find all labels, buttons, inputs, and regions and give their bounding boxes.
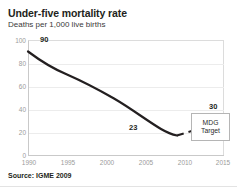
x-tick-2010: 2010 [178,159,192,166]
data-label-90: 90 [40,35,48,44]
source-value: IGME 2009 [36,172,71,179]
y-tick-20: 20 [6,129,26,136]
source-note: Source:IGME 2009 [8,172,71,179]
chart-subtitle: Deaths per 1,000 live births [8,20,231,30]
observed-line [28,52,177,136]
x-axis-line [28,155,224,156]
mdg-target-callout: MDG Target [191,113,230,141]
bottom-divider [0,186,237,187]
y-tick-60: 60 [6,83,26,90]
mdg-callout-line-1: MDG [203,119,219,128]
y-tick-80: 80 [6,60,26,67]
y-tick-40: 40 [6,106,26,113]
x-tick-1995: 1995 [61,159,75,166]
chart-card: Under-five mortality rate Deaths per 1,0… [0,0,237,193]
mdg-callout-line-2: Target [201,127,220,136]
y-tick-0: 0 [6,152,26,159]
source-label: Source: [8,172,34,179]
data-label-23: 23 [129,123,137,132]
x-axis-ticks: 1990 1995 2000 2005 2010 2015 [6,159,231,171]
y-tick-100: 100 [6,37,26,44]
x-tick-1990: 1990 [22,159,36,166]
page-title: Under-five mortality rate [8,7,231,19]
data-label-30: 30 [209,102,217,111]
x-tick-2015: 2015 [216,159,230,166]
x-tick-2005: 2005 [139,159,153,166]
y-axis-ticks: 100 80 60 40 20 0 [6,35,26,160]
chart-plot-area: 100 80 60 40 20 0 90 23 30 1990 1995 200… [6,35,231,160]
x-tick-2000: 2000 [100,159,114,166]
